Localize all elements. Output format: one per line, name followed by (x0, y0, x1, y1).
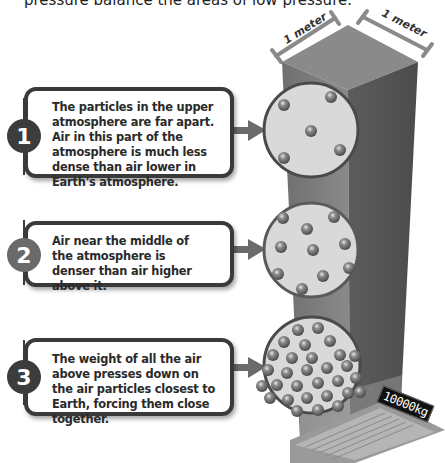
step-badge-2: 2 (7, 238, 41, 272)
callout-box-3: The weight of all the air above presses … (24, 338, 234, 416)
callout-text-1: The particles in the upper atmosphere ar… (52, 100, 220, 190)
step-badge-3: 3 (7, 360, 41, 394)
particle-circle-1 (264, 83, 358, 177)
step-badge-1: 1 (7, 119, 41, 153)
callout-box-1: The particles in the upper atmosphere ar… (24, 87, 234, 178)
callout-box-2: Air near the middle of the atmosphere is… (24, 221, 234, 287)
callout-text-3: The weight of all the air above presses … (52, 352, 222, 427)
callout-text-2: Air near the middle of the atmosphere is… (52, 234, 202, 294)
particle-circle-2 (264, 203, 358, 297)
